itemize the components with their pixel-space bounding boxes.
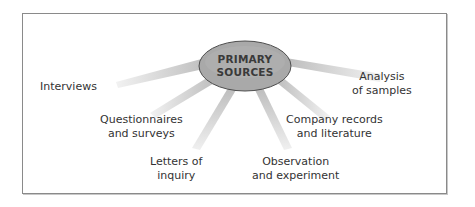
source-letters: Letters of inquiry	[150, 155, 202, 183]
ray-interviews	[116, 58, 208, 88]
source-questionnaires: Questionnaires and surveys	[100, 113, 183, 141]
source-analysis: Analysis of samples	[352, 70, 412, 98]
connector-rays	[0, 0, 475, 207]
hub-label: PRIMARY SOURCES	[217, 53, 274, 79]
source-observation: Observation and experiment	[252, 155, 339, 183]
ray-letters	[192, 88, 236, 150]
hub-node: PRIMARY SOURCES	[199, 41, 291, 91]
source-company-records: Company records and literature	[286, 113, 383, 141]
source-interviews: Interviews	[40, 80, 97, 94]
